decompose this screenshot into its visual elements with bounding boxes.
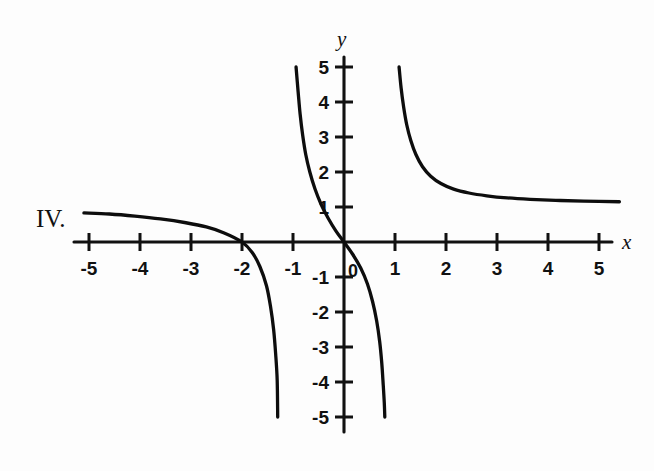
x-tick-label: 1 xyxy=(390,258,401,279)
x-tick-label: -5 xyxy=(81,258,98,279)
origin-label: 0 xyxy=(348,261,358,281)
x-tick-label: -2 xyxy=(234,258,251,279)
x-tick-label: -4 xyxy=(132,258,149,279)
y-tick-label: 5 xyxy=(318,57,329,78)
y-tick-label: -4 xyxy=(312,372,329,393)
figure-container: -5-4-3-2-112345 54321-1-2-3-4-5 x y 0 IV… xyxy=(0,0,654,471)
figure-number-label: IV. xyxy=(36,205,65,232)
y-tick-label: -5 xyxy=(312,407,329,428)
x-tick-label: -3 xyxy=(183,258,200,279)
x-tick-label: 3 xyxy=(492,258,503,279)
coordinate-plane-graph: -5-4-3-2-112345 54321-1-2-3-4-5 x y 0 IV… xyxy=(0,0,654,471)
x-axis-label: x xyxy=(621,230,632,254)
y-tick-label: -3 xyxy=(312,337,329,358)
y-tick-label: 2 xyxy=(318,162,329,183)
axes-group xyxy=(74,57,612,432)
x-tick-label: 4 xyxy=(543,258,554,279)
x-tick-label: -1 xyxy=(285,258,302,279)
x-tick-label: 5 xyxy=(594,258,605,279)
y-tick-label: 4 xyxy=(318,92,329,113)
x-tick-label: 2 xyxy=(441,258,452,279)
y-axis-label: y xyxy=(335,27,347,51)
y-tick-label: -2 xyxy=(312,302,329,323)
curve-right-branch xyxy=(399,67,619,202)
y-tick-label: -1 xyxy=(312,267,329,288)
curve-left-branch xyxy=(84,213,278,417)
y-tick-label: 3 xyxy=(318,127,329,148)
